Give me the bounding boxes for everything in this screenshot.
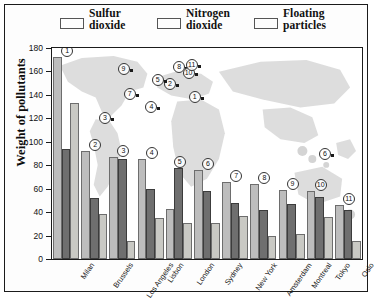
x-axis: MilanBrusselsLos AngelesLisbonLondonSydn… (51, 261, 363, 298)
bar-group: 6 (193, 48, 221, 259)
x-tick-label: Tokyo (333, 261, 352, 282)
bar-group-number: 2 (89, 139, 101, 151)
map-city-dot (130, 69, 133, 72)
y-tick-label: 160 (29, 66, 43, 76)
bar-nitrogen-dioxide (90, 198, 99, 259)
legend-swatch-nitrogen-dioxide (157, 18, 181, 29)
bar-group: 2 (80, 48, 108, 259)
map-city-dot (176, 84, 179, 87)
bar-nitrogen-dioxide (259, 210, 268, 259)
bar-group: 8 (249, 48, 277, 259)
bar-floating-particles (268, 236, 277, 259)
bar-group-number: 7 (230, 170, 242, 182)
y-tick-label: 100 (29, 137, 43, 147)
map-city-dot (164, 80, 167, 83)
y-tick-label: 180 (29, 43, 43, 53)
bar-nitrogen-dioxide (344, 210, 353, 259)
y-axis: 020406080100120140160180 (5, 47, 51, 261)
bar-group: 3 (108, 48, 136, 259)
map-city-dot (201, 97, 204, 100)
bar-group: 9 (277, 48, 305, 259)
bar-sulfur-dioxide (279, 190, 288, 259)
bar-sulfur-dioxide (109, 157, 118, 259)
legend-label-floating-particles: Floating particles (283, 8, 326, 31)
bar-group-number: 6 (202, 158, 214, 170)
bar-group: 1 (52, 48, 80, 259)
map-marker-number: 3 (99, 112, 111, 124)
bar-floating-particles (127, 241, 136, 259)
map-marker-number: 6 (319, 148, 331, 160)
y-tick-label: 60 (34, 184, 43, 194)
bar-floating-particles (155, 218, 164, 259)
bar-floating-particles (99, 214, 108, 259)
bar-sulfur-dioxide (250, 184, 259, 259)
bar-sulfur-dioxide (81, 151, 90, 259)
bar-sulfur-dioxide (222, 182, 231, 259)
bar-floating-particles (324, 217, 333, 259)
chart-frame: Sulfur dioxide Nitrogen dioxide Floating… (4, 4, 368, 292)
legend-label-line2: particles (283, 20, 326, 32)
legend-label-line1: Floating (283, 8, 326, 20)
map-city-dot (198, 65, 201, 68)
bar-group-number: 3 (117, 145, 129, 157)
y-tick-label: 140 (29, 90, 43, 100)
bar-nitrogen-dioxide (287, 204, 296, 259)
map-city-dot (111, 118, 114, 121)
legend-label-line2: dioxide (89, 20, 126, 32)
map-marker-number: 5 (152, 74, 164, 86)
bar-group: 7 (221, 48, 249, 259)
bar-group-number: 10 (315, 179, 327, 191)
bar-sulfur-dioxide (194, 170, 203, 259)
bar-groups: 12345678910111234567891011 (52, 48, 362, 259)
x-tick-label: Sydney (223, 261, 245, 287)
bar-nitrogen-dioxide (231, 203, 240, 259)
bar-nitrogen-dioxide (62, 149, 71, 259)
y-tick-label: 80 (34, 160, 43, 170)
map-city-dot (136, 94, 139, 97)
x-tick-label: Oslo (359, 261, 374, 279)
y-tick-label: 40 (34, 207, 43, 217)
legend-label-nitrogen-dioxide: Nitrogen dioxide (186, 8, 230, 31)
map-city-dot (331, 154, 334, 157)
bar-group-number: 8 (258, 172, 270, 184)
bar-floating-particles (183, 223, 192, 259)
y-tick-label: 20 (34, 231, 43, 241)
map-marker-number: 11 (186, 59, 198, 71)
legend-label-line1: Sulfur (89, 8, 126, 20)
bar-sulfur-dioxide (166, 209, 175, 259)
bar-nitrogen-dioxide (174, 168, 183, 259)
legend-label-line2: dioxide (186, 20, 230, 32)
legend-label-line1: Nitrogen (186, 8, 230, 20)
legend-swatch-sulfur-dioxide (60, 18, 84, 29)
bar-nitrogen-dioxide (118, 159, 127, 259)
x-tick-label: Amsterdam (285, 261, 314, 298)
map-city-dot (157, 107, 160, 110)
map-marker-number: 9 (118, 63, 130, 75)
bar-group: 11 (334, 48, 362, 259)
chart-legend: Sulfur dioxide Nitrogen dioxide Floating… (5, 9, 369, 43)
bar-sulfur-dioxide (307, 191, 316, 259)
plot-area: 12345678910111234567891011 (51, 47, 363, 260)
bar-sulfur-dioxide (138, 159, 147, 259)
bar-group-number: 4 (146, 147, 158, 159)
bar-floating-particles (211, 223, 220, 259)
x-tick-label: New York (254, 261, 280, 292)
map-marker-number: 1 (189, 91, 201, 103)
bar-group-number: 5 (174, 156, 186, 168)
bar-group-number: 1 (61, 47, 73, 57)
bar-floating-particles (352, 241, 361, 259)
bar-group-number: 9 (287, 178, 299, 190)
bar-sulfur-dioxide (335, 205, 344, 259)
bar-group-number: 11 (343, 193, 355, 205)
x-tick-label: London (194, 261, 216, 287)
legend-label-sulfur-dioxide: Sulfur dioxide (89, 8, 126, 31)
x-tick-label: Brussels (112, 261, 136, 290)
bar-floating-particles (296, 234, 305, 259)
x-tick-label: Milan (79, 261, 97, 281)
bar-nitrogen-dioxide (203, 191, 212, 259)
y-tick-label: 0 (38, 254, 43, 264)
y-tick-label: 120 (29, 113, 43, 123)
bar-floating-particles (70, 103, 79, 259)
legend-swatch-floating-particles (254, 18, 278, 29)
bar-floating-particles (239, 216, 248, 259)
